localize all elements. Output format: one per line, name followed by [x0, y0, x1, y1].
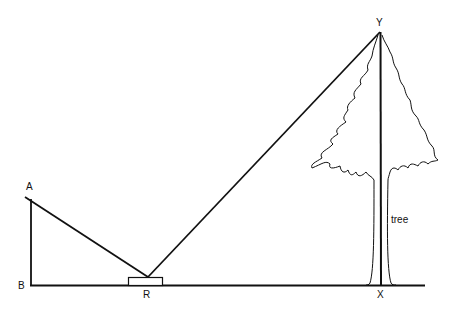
segment-ar: [25, 197, 148, 277]
segment-xy: [381, 32, 382, 285]
tree-foliage-left: [312, 35, 378, 180]
segment-ry: [148, 32, 380, 277]
label-y: Y: [376, 18, 383, 28]
label-a: A: [26, 182, 33, 192]
mirror: [129, 278, 163, 286]
label-x: X: [377, 290, 384, 300]
label-b: B: [18, 281, 25, 291]
label-tree: tree: [391, 215, 408, 225]
label-r: R: [143, 290, 150, 300]
tree-foliage-right: [382, 35, 438, 180]
diagram-canvas: [0, 0, 464, 310]
